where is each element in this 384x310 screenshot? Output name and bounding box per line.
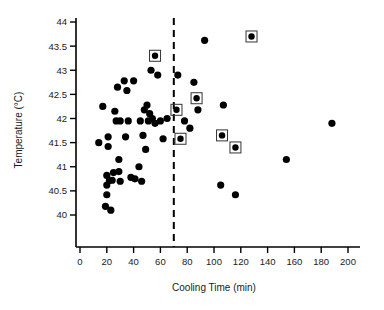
y-tick-label: 42 xyxy=(56,113,67,124)
data-point xyxy=(111,108,118,115)
y-tick-label: 44 xyxy=(56,16,67,27)
data-point xyxy=(131,175,138,182)
y-axis-title: Temperature (°C) xyxy=(13,92,24,169)
data-point xyxy=(95,139,102,146)
data-point xyxy=(103,191,110,198)
data-point-highlighted xyxy=(173,107,179,113)
data-point xyxy=(99,103,106,110)
y-tick-label: 43.5 xyxy=(49,41,68,52)
data-points-group xyxy=(95,31,335,214)
x-tick-label: 20 xyxy=(102,256,113,267)
data-point xyxy=(147,67,154,74)
data-point xyxy=(105,143,112,150)
data-point xyxy=(107,207,114,214)
data-point xyxy=(164,115,171,122)
x-tick-label: 120 xyxy=(233,256,249,267)
y-tick-label: 41 xyxy=(56,161,67,172)
scatter-plot-figure: 020406080100120140160180200 4040.54141.5… xyxy=(0,0,384,310)
data-point-highlighted xyxy=(248,33,254,39)
data-point xyxy=(121,77,128,84)
x-tick-label: 200 xyxy=(340,256,356,267)
data-point xyxy=(328,120,335,127)
y-tick-label: 43 xyxy=(56,65,67,76)
data-point xyxy=(117,117,124,124)
x-axis-title: Cooling Time (min) xyxy=(172,282,256,293)
chart-canvas: 020406080100120140160180200 4040.54141.5… xyxy=(0,0,384,310)
data-point xyxy=(194,106,201,113)
x-tick-label: 0 xyxy=(77,256,82,267)
data-point xyxy=(220,101,227,108)
data-point xyxy=(115,156,122,163)
y-axis-ticks: 4040.54141.54242.54343.544 xyxy=(49,16,77,220)
x-axis-ticks: 020406080100120140160180200 xyxy=(77,247,356,267)
x-tick-label: 180 xyxy=(313,256,329,267)
data-point xyxy=(181,117,188,124)
data-point xyxy=(154,71,161,78)
data-point xyxy=(137,117,144,124)
x-tick-label: 140 xyxy=(260,256,276,267)
data-point-highlighted xyxy=(232,144,238,150)
data-point xyxy=(186,125,193,132)
data-point xyxy=(232,191,239,198)
data-point xyxy=(157,117,164,124)
data-point xyxy=(143,101,150,108)
data-point xyxy=(109,177,116,184)
x-tick-label: 40 xyxy=(128,256,139,267)
data-point-highlighted xyxy=(193,95,199,101)
data-point xyxy=(125,117,132,124)
data-point xyxy=(201,37,208,44)
y-tick-label: 40.5 xyxy=(49,185,68,196)
x-tick-label: 80 xyxy=(182,256,193,267)
y-tick-label: 40 xyxy=(56,209,67,220)
x-tick-label: 100 xyxy=(206,256,222,267)
data-point xyxy=(190,79,197,86)
data-point xyxy=(135,163,142,170)
data-point xyxy=(139,132,146,139)
axes-group xyxy=(76,18,360,247)
data-point-highlighted xyxy=(177,136,183,142)
data-point xyxy=(130,77,137,84)
data-point xyxy=(138,178,145,185)
x-tick-label: 160 xyxy=(286,256,302,267)
data-point-highlighted xyxy=(152,53,158,59)
data-point-highlighted xyxy=(219,132,225,138)
data-point xyxy=(122,133,129,140)
x-tick-label: 60 xyxy=(155,256,166,267)
data-point xyxy=(123,87,130,94)
data-point xyxy=(105,133,112,140)
data-point xyxy=(115,168,122,175)
data-point xyxy=(283,156,290,163)
y-tick-label: 41.5 xyxy=(49,137,68,148)
data-point xyxy=(159,135,166,142)
data-point xyxy=(142,146,149,153)
data-point xyxy=(217,181,224,188)
data-point xyxy=(174,71,181,78)
data-point xyxy=(117,178,124,185)
data-point xyxy=(114,84,121,91)
y-tick-label: 42.5 xyxy=(49,89,68,100)
